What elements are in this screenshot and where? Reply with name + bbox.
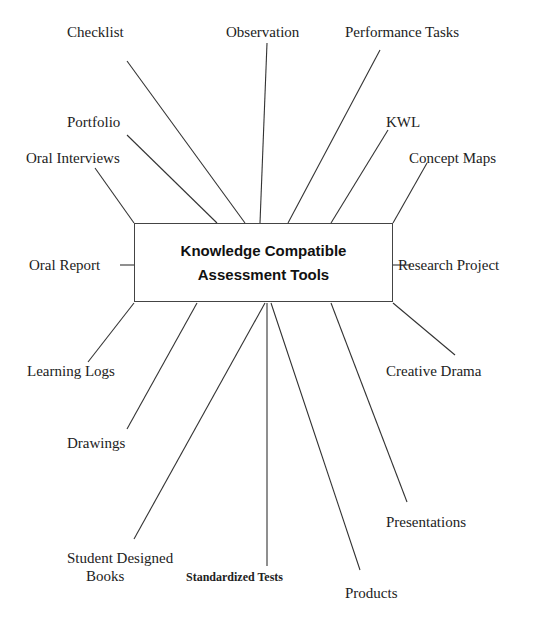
connector-performance-tasks (288, 50, 380, 223)
node-student-designed-books-line1: Student Designed (67, 549, 173, 567)
node-kwl: KWL (386, 113, 420, 131)
connector-student-designed-books (134, 303, 265, 539)
central-topic-line2: Assessment Tools (198, 263, 329, 287)
node-research-project: Research Project (398, 256, 499, 274)
node-checklist: Checklist (67, 23, 124, 41)
node-student-designed-books-line2: Books (67, 567, 173, 585)
connector-learning-logs (88, 303, 134, 362)
node-creative-drama: Creative Drama (386, 362, 481, 380)
connector-observation (260, 43, 267, 223)
node-standardized-tests: Standardized Tests (186, 568, 283, 586)
node-learning-logs: Learning Logs (27, 362, 115, 380)
node-portfolio: Portfolio (67, 113, 120, 131)
connector-drawings (127, 303, 197, 429)
connector-portfolio (127, 135, 217, 223)
connector-checklist (127, 61, 245, 223)
connector-creative-drama (393, 303, 455, 355)
node-presentations: Presentations (386, 513, 466, 531)
connector-lines (0, 0, 551, 618)
node-drawings: Drawings (67, 434, 125, 452)
connector-presentations (331, 303, 407, 502)
node-student-designed-books: Student Designed Books (67, 549, 173, 585)
connector-kwl (331, 130, 388, 223)
node-products: Products (345, 584, 398, 602)
central-topic-box: Knowledge Compatible Assessment Tools (134, 223, 393, 302)
concept-diagram: Knowledge Compatible Assessment Tools Ch… (0, 0, 551, 618)
central-topic-line1: Knowledge Compatible (181, 239, 347, 263)
node-observation: Observation (226, 23, 299, 41)
node-oral-interviews: Oral Interviews (26, 149, 120, 167)
node-concept-maps: Concept Maps (409, 149, 496, 167)
connector-concept-maps (393, 163, 427, 223)
node-performance-tasks: Performance Tasks (345, 23, 459, 41)
node-oral-report: Oral Report (29, 256, 100, 274)
connector-oral-interviews (95, 168, 134, 223)
